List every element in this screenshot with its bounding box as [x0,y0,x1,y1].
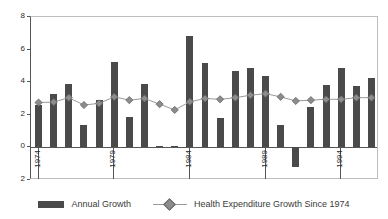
y-axis-tick-mark [27,179,30,180]
line-marker-diamond [232,94,239,101]
chart-legend: Annual Growth Health Expenditure Growth … [0,193,388,215]
y-axis-tick-mark [27,146,30,147]
line-marker-diamond [201,95,208,102]
y-axis-tick-mark [27,16,30,17]
line-marker-diamond [307,97,314,104]
line-marker-diamond [111,93,118,100]
bar-swatch-icon [38,201,64,208]
legend-label-health-expenditure-growth: Health Expenditure Growth Since 1974 [194,199,350,209]
line-marker-diamond [156,101,163,108]
y-axis-tick-label: 6 [0,45,29,53]
line-marker-diamond [247,92,254,99]
plot-area [30,16,378,179]
x-axis-tick-label: 1989 [261,150,269,168]
line-marker-diamond [65,94,72,101]
chart-figure: 864202 19741979198419891994 Annual Growt… [0,0,388,219]
y-axis-tick-mark [27,81,30,82]
legend-item-health-expenditure-growth: Health Expenditure Growth Since 1974 [153,199,350,209]
line-marker-diamond [338,96,345,103]
legend-item-annual-growth: Annual Growth [38,199,131,209]
line-marker-diamond [368,94,375,101]
x-axis-tick-label: 1979 [109,150,117,168]
line-diamond-swatch-icon [153,200,187,209]
line-series [31,17,379,180]
line-marker-diamond [35,99,42,106]
line-marker-diamond [353,94,360,101]
y-axis-tick-label: 8 [0,12,29,20]
x-axis-tick-label: 1994 [336,150,344,168]
y-axis-tick-label: 2 [0,175,29,183]
line-marker-diamond [171,106,178,113]
y-axis-tick-label: 2 [0,110,29,118]
y-axis-tick-mark [27,49,30,50]
y-axis-tick-label: 0 [0,142,29,150]
line-marker-diamond [277,93,284,100]
y-axis-tick-mark [27,114,30,115]
line-series-layer [31,17,377,178]
line-marker-diamond [217,96,224,103]
line-marker-diamond [141,95,148,102]
line-marker-diamond [186,98,193,105]
x-axis-tick-label: 1984 [185,150,193,168]
line-marker-diamond [322,96,329,103]
line-marker-diamond [50,98,57,105]
legend-label-annual-growth: Annual Growth [71,199,131,209]
y-axis-tick-label: 4 [0,77,29,85]
line-marker-diamond [126,97,133,104]
line-marker-diamond [292,97,299,104]
x-axis-tick-label: 1974 [34,150,42,168]
line-marker-diamond [262,90,269,97]
line-marker-diamond [80,101,87,108]
line-marker-diamond [95,100,102,107]
